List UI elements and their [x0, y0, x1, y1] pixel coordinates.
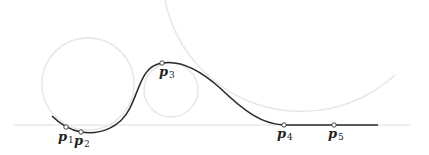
curve-diagram: p1 p2 p3 p4 p5 — [0, 0, 429, 155]
spline-curve — [52, 62, 378, 132]
point-label: p1 — [58, 129, 74, 145]
point-p1: p1 — [58, 125, 74, 145]
osculating-circle-large-left — [42, 38, 134, 130]
point-label: p4 — [277, 126, 293, 142]
point-label: p2 — [74, 133, 90, 149]
point-label: p3 — [159, 64, 175, 80]
point-label: p5 — [328, 126, 344, 142]
osculating-arc-large-right — [165, 0, 395, 111]
